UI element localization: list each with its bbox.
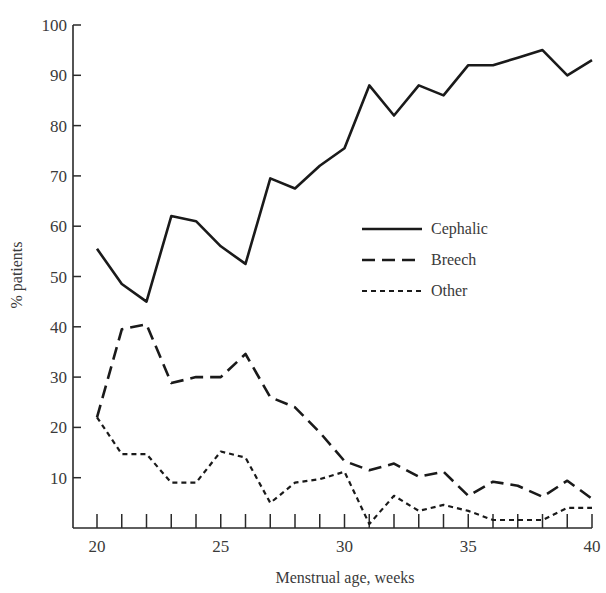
legend-label-cephalic: Cephalic [431, 220, 488, 238]
y-tick-label: 100 [42, 16, 68, 35]
series-line-other [97, 417, 592, 524]
x-tick-label: 20 [89, 537, 106, 556]
y-tick-label: 40 [50, 318, 67, 337]
series-line-breech [97, 324, 592, 499]
y-tick-label: 80 [50, 117, 67, 136]
x-tick-label: 30 [336, 537, 353, 556]
x-tick-label: 40 [584, 537, 601, 556]
series-line-cephalic [97, 50, 592, 302]
y-tick-label: 60 [50, 217, 67, 236]
y-axis: 102030405060708090100 [42, 16, 82, 528]
line-chart: 102030405060708090100 2025303540 % patie… [0, 0, 606, 593]
x-axis-title: Menstrual age, weeks [275, 569, 414, 587]
y-tick-label: 10 [50, 469, 67, 488]
legend: Cephalic Breech Other [362, 220, 488, 299]
x-tick-label: 35 [460, 537, 477, 556]
y-tick-label: 30 [50, 368, 67, 387]
y-tick-label: 20 [50, 418, 67, 437]
y-tick-label: 50 [50, 268, 67, 287]
y-tick-label: 70 [50, 167, 67, 186]
y-tick-label: 90 [50, 66, 67, 85]
x-tick-label: 25 [212, 537, 229, 556]
series-lines [97, 50, 592, 524]
y-axis-title: % patients [8, 241, 26, 308]
legend-label-other: Other [431, 282, 468, 299]
legend-label-breech: Breech [431, 251, 476, 268]
